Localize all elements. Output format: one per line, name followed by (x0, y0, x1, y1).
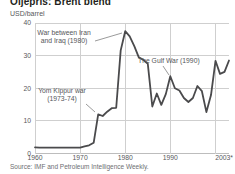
x-tick-label: 1980 (118, 154, 133, 161)
y-tick-label: 20 (23, 85, 31, 92)
annotation-pointer-gulf_war (163, 66, 169, 75)
y-tick-label: 10 (23, 117, 31, 124)
annotation-line: (1973-74) (33, 95, 91, 103)
annotation-line: and Iraq (1980) (33, 37, 95, 45)
annotation-pointer-yom_kippur (86, 104, 95, 112)
annotation-iran_iraq: War between Iranand Iraq (1980) (33, 29, 95, 45)
annotation-line: The Gulf War (1990) (138, 57, 210, 65)
annotation-yom_kippur: Yom Kippur war(1973-74) (33, 87, 91, 103)
annotation-line: War between Iran (33, 29, 95, 37)
x-tick-label: 1970 (73, 154, 88, 161)
oil-price-chart-figure: Oljepris: Brent blend USD/barrel 0102030… (0, 0, 235, 174)
source-caption: Source: IMF and Petroleum Intelligence W… (10, 163, 149, 170)
annotation-gulf_war: The Gulf War (1990) (138, 57, 210, 65)
annotation-line: Yom Kippur war (33, 87, 91, 95)
y-tick-label: 40 (23, 19, 31, 26)
x-tick-label: 1990 (163, 154, 178, 161)
y-tick-label: 30 (23, 52, 31, 59)
x-tick-label: 1960 (27, 154, 42, 161)
x-tick-label: 2003* (215, 154, 233, 161)
annotation-pointer-iran_iraq (95, 33, 122, 41)
